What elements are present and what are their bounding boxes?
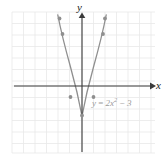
equation-constant: 3 xyxy=(127,98,132,108)
equation-label: y = 2x2 − 3 xyxy=(92,99,131,108)
curve-point xyxy=(58,17,62,21)
graph-figure: y x y = 2x2 − 3 xyxy=(0,0,168,160)
equation-lhs: y xyxy=(92,98,96,108)
curve-point xyxy=(80,114,84,118)
grid-lines xyxy=(12,12,155,153)
y-axis-arrow-icon xyxy=(79,13,86,19)
equation-equals: = xyxy=(98,98,103,108)
curve-point xyxy=(61,32,65,36)
grid-horizontal-lines xyxy=(12,12,155,153)
equation-exponent: 2 xyxy=(114,96,117,103)
y-axis-label: y xyxy=(77,2,82,13)
curve-point xyxy=(69,95,73,99)
curve-point xyxy=(103,17,107,21)
equation-minus: − xyxy=(120,98,125,108)
plot-canvas xyxy=(0,0,168,160)
y-axis xyxy=(79,13,86,153)
curve-point xyxy=(101,32,105,36)
x-axis-label: x xyxy=(156,80,161,91)
